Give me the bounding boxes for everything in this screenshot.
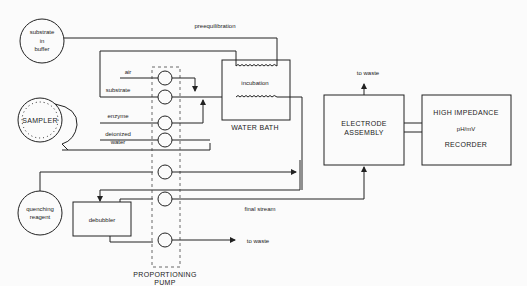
flow-diagram: substrate in buffer preequilibration SAM… (0, 0, 527, 286)
svg-text:substrate: substrate (30, 29, 55, 35)
svg-text:enzyme: enzyme (107, 113, 129, 119)
debubbler-bottom-line (110, 236, 153, 242)
svg-text:HIGH IMPEDANCE: HIGH IMPEDANCE (433, 109, 498, 116)
svg-text:to waste: to waste (357, 70, 380, 76)
quenching-reagent: quenching reagent (18, 191, 62, 235)
quenching-line (40, 172, 153, 191)
electrode-recorder-cable (404, 123, 422, 132)
svg-text:to waste: to waste (247, 238, 270, 244)
debubbler: debubbler (73, 202, 131, 236)
preequilibration-label: preequilibration (194, 23, 235, 29)
svg-text:WATER BATH: WATER BATH (231, 124, 279, 131)
svg-text:PUMP: PUMP (154, 279, 175, 286)
svg-text:reagent: reagent (30, 214, 51, 220)
svg-text:incubation: incubation (241, 80, 268, 86)
substrate-buffer-reservoir: substrate in buffer (20, 19, 64, 63)
electrode-assembly: ELECTRODE ASSEMBLY (324, 95, 404, 165)
sampler: SAMPLER (18, 98, 77, 150)
svg-text:quenching: quenching (26, 206, 54, 212)
pump-tubes (158, 71, 172, 247)
svg-text:buffer: buffer (34, 46, 49, 52)
water-bath: incubation WATER BATH (222, 60, 290, 131)
svg-text:in: in (40, 38, 45, 44)
svg-text:RECORDER: RECORDER (445, 141, 487, 148)
preequilibration-line (64, 38, 277, 66)
incubation-coil (236, 96, 277, 98)
svg-text:debubbler: debubbler (89, 217, 116, 223)
svg-text:substrate: substrate (106, 87, 131, 93)
svg-text:SAMPLER: SAMPLER (22, 117, 58, 124)
preequilibration-coil (236, 65, 277, 67)
svg-text:water: water (110, 139, 126, 145)
pump-label: PROPORTIONING (133, 271, 196, 278)
svg-text:pH/mV: pH/mV (457, 126, 475, 132)
recorder: HIGH IMPEDANCE pH/mV RECORDER (422, 95, 511, 165)
svg-text:ELECTRODE: ELECTRODE (341, 120, 387, 127)
svg-text:air: air (125, 69, 132, 75)
debubbler-inlet-line (100, 160, 300, 201)
sampler-output-line (62, 143, 210, 150)
svg-text:ASSEMBLY: ASSEMBLY (344, 129, 384, 136)
svg-text:deionized: deionized (105, 131, 131, 137)
svg-text:final stream: final stream (244, 206, 275, 212)
